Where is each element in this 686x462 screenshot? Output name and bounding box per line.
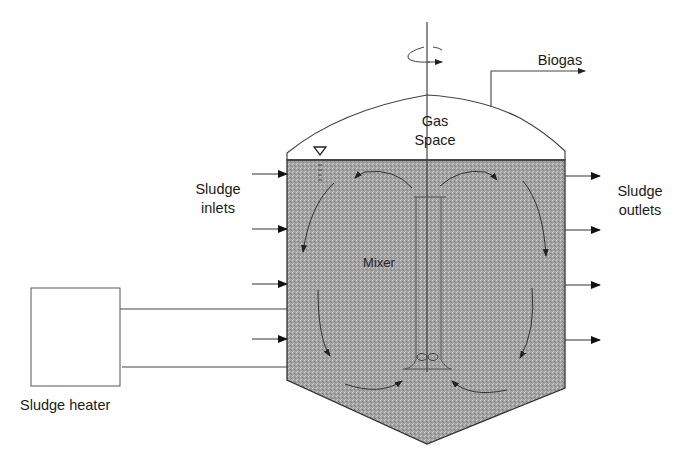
mixer-label: Mixer [354,253,404,272]
gas-space-label-line2: Space [405,131,465,150]
rotation-icon [408,47,442,62]
sludge-heater-label: Sludge heater [20,396,140,415]
sludge-outlets-label: Sludge outlets [600,182,680,220]
sludge-outlets-label-line2: outlets [600,201,680,220]
gas-space-label-line1: Gas [405,112,465,131]
sludge-heater-box [31,288,120,386]
sludge-outlet-arrows [565,176,600,340]
sludge-inlets-label: Sludge inlets [178,180,258,218]
gas-space-label: Gas Space [405,112,465,150]
sludge-outlets-label-line1: Sludge [600,182,680,201]
sludge-inlets-label-line1: Sludge [178,180,258,199]
biogas-pipe [491,71,585,107]
sludge-tank-body [287,160,565,444]
sludge-inlets-label-line2: inlets [178,199,258,218]
biogas-label: Biogas [520,51,600,70]
